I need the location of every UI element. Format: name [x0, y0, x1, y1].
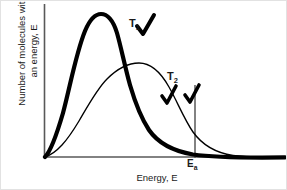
- curve-t1: [45, 14, 285, 158]
- series-label-t2: T2: [167, 71, 178, 85]
- activation-energy-label: Ea: [187, 159, 197, 172]
- y-axis-label: Number of molecules withan energy, E: [16, 0, 40, 126]
- activation-energy-label-subscript: a: [194, 164, 198, 171]
- checkmark-t2-icon: [162, 86, 176, 103]
- plot-area: [1, 1, 287, 190]
- series-label-t2-subscript: 2: [174, 76, 178, 85]
- y-axis-label-line1: Number of molecules with: [16, 0, 27, 106]
- checkmark-ea-icon: [185, 85, 199, 102]
- x-axis-label: Energy, E: [109, 173, 205, 183]
- activation-energy-label-text: E: [187, 158, 194, 169]
- series-label-t1: T1: [129, 18, 140, 32]
- chart-figure: Number of molecules withan energy, E Ene…: [0, 0, 287, 190]
- series-label-t1-text: T: [129, 17, 136, 29]
- series-label-t2-text: T: [167, 70, 174, 82]
- series-label-t1-subscript: 1: [136, 23, 140, 32]
- y-axis-label-line2: an energy, E: [28, 24, 39, 77]
